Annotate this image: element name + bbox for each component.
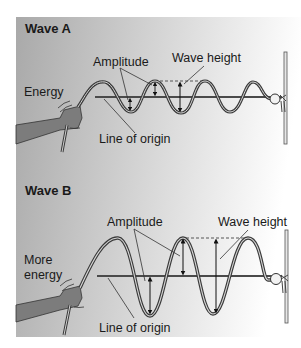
wave-diagram: Wave A Energy Amplitude Wave height Line… (0, 0, 301, 348)
wave-a-wave-height-label: Wave height (172, 51, 242, 65)
panel-background (16, 17, 301, 337)
wave-a-title: Wave A (25, 21, 72, 36)
wave-a-amplitude-label: Amplitude (93, 55, 149, 69)
wave-b-knot (271, 274, 282, 285)
wave-b-title: Wave B (25, 183, 71, 198)
wave-a-energy-label: Energy (24, 85, 64, 99)
wave-diagram-svg: Wave A Energy Amplitude Wave height Line… (0, 0, 301, 348)
wave-b-origin-label: Line of origin (99, 321, 171, 335)
wave-b-wave-height-label: Wave height (218, 215, 288, 229)
wave-b-amplitude-label: Amplitude (107, 215, 163, 229)
wave-b-energy-label-line2: energy (24, 268, 63, 282)
wave-a-pole (284, 52, 287, 144)
wave-a-origin-label: Line of origin (99, 132, 171, 146)
wave-a-knot (270, 94, 280, 104)
wave-b-energy-label-line1: More (24, 253, 53, 267)
